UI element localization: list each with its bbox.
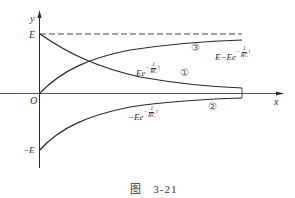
curve-1-exponent: − 1 RC t — [146, 62, 160, 74]
curve-1 — [40, 34, 242, 88]
exp-variable: t — [158, 65, 160, 71]
x-axis-label: x — [274, 97, 278, 107]
y-tick-E-label: E — [29, 30, 35, 40]
exp-fraction: 1 RC — [150, 62, 157, 74]
diagram-canvas — [0, 0, 295, 198]
caption-number: 3-21 — [153, 183, 177, 195]
exp-denominator: RC — [150, 69, 157, 75]
curve-2-marker: ② — [208, 102, 217, 112]
curve-2-expr-main: −Ee — [128, 112, 144, 122]
curve-3 — [40, 40, 242, 93]
y-axis-arrow-icon — [38, 10, 42, 18]
y-tick-negE-label: −E — [23, 146, 35, 155]
curve-3-exponent: − 1 RC t — [236, 46, 250, 58]
exp-fraction: 1 RC — [148, 106, 155, 118]
exp-sign: − — [144, 109, 148, 115]
curve-1-expression: Ee − 1 RC t — [136, 69, 146, 78]
curve-3-expr-main: E−Ee — [215, 52, 236, 62]
exp-variable: t — [156, 109, 158, 115]
exp-variable: t — [249, 49, 251, 55]
exp-fraction: 1 RC — [241, 46, 248, 58]
exp-sign: − — [236, 49, 240, 55]
figure-caption: 图 3-21 — [130, 180, 177, 196]
exp-denominator: RC — [148, 113, 155, 119]
curve-1-expr-main: Ee — [136, 68, 146, 78]
curve-2-exponent: − 1 RC t — [144, 106, 158, 118]
exp-denominator: RC — [241, 53, 248, 59]
caption-prefix: 图 — [130, 183, 142, 195]
curve-2-expression: −Ee − 1 RC t — [128, 113, 144, 122]
curve-1-marker: ① — [180, 68, 189, 78]
origin-label: O — [30, 96, 37, 106]
y-axis-label: y — [30, 14, 34, 24]
curve-3-marker: ③ — [191, 43, 200, 53]
curve-3-expression: E−Ee − 1 RC t — [215, 53, 236, 62]
x-axis-arrow-icon — [276, 92, 284, 96]
exp-sign: − — [146, 65, 150, 71]
